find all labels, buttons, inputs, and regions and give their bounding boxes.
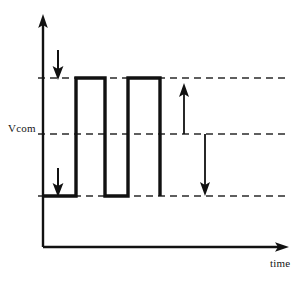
waveform-diagram-canvas [0,0,304,281]
waveform-figure: Vcom time [0,0,304,281]
figure-background [0,0,304,281]
time-axis-label: time [270,257,290,269]
vcom-label: Vcom [8,122,36,134]
